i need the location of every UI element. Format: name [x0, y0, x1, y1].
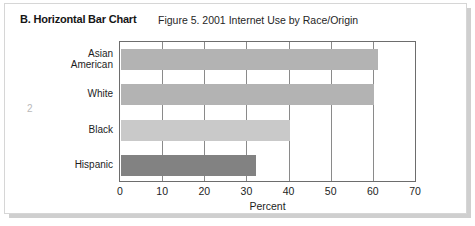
x-tick-label: 70	[409, 185, 421, 197]
bar-fill	[121, 155, 256, 176]
bar	[121, 155, 256, 176]
x-tick-label: 0	[117, 185, 123, 197]
x-tick-label: 40	[283, 185, 295, 197]
bar	[121, 84, 374, 105]
bar-fill	[121, 84, 374, 105]
x-tick-label: 30	[241, 185, 253, 197]
x-axis-title: Percent	[119, 200, 416, 212]
bar	[121, 120, 290, 141]
figure-title: Figure 5. 2001 Internet Use by Race/Orig…	[158, 14, 358, 26]
card-shadow-right	[467, 8, 471, 217]
x-tick-label: 10	[156, 185, 168, 197]
category-label: Asian American	[0, 48, 113, 70]
bar-fill	[121, 120, 290, 141]
section-heading: B. Horizontal Bar Chart	[20, 13, 136, 25]
category-label: Hispanic	[0, 159, 113, 170]
bar-fill	[121, 49, 378, 70]
category-label: Black	[0, 124, 113, 135]
x-tick-label: 20	[198, 185, 210, 197]
x-tick-label: 60	[367, 185, 379, 197]
card-shadow-bottom	[9, 214, 471, 218]
x-tick-label: 50	[325, 185, 337, 197]
page-card: B. Horizontal Bar Chart Figure 5. 2001 I…	[4, 3, 467, 214]
bar	[121, 49, 378, 70]
plot-area	[119, 41, 416, 182]
page-number: 2	[27, 103, 33, 114]
horizontal-bar-chart	[119, 41, 416, 182]
x-axis-title-text: Percent	[249, 200, 285, 212]
category-label: White	[0, 88, 113, 99]
